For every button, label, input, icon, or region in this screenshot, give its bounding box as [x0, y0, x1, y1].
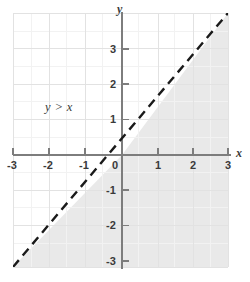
y-tick-label-3: 3	[110, 44, 116, 55]
x-tick-label-2: 2	[190, 160, 196, 171]
coordinate-plane	[0, 0, 250, 282]
x-tick-label-1: 1	[155, 160, 161, 171]
y-tick-label--1: -1	[106, 185, 116, 196]
x-tick-label--1: -1	[79, 160, 89, 171]
x-tick-label--3: -3	[7, 160, 17, 171]
y-tick-label--2: -2	[106, 220, 116, 231]
x-tick-label-3: 3	[225, 160, 231, 171]
y-tick-label-1: 1	[110, 114, 116, 125]
inequality-annotation: y > x	[45, 101, 73, 114]
x-axis-label: x	[236, 147, 242, 159]
inequality-graph-figure: -3 -2 -1 0 1 2 3 3 2 1 -1 -2 -3 x y y > …	[0, 0, 250, 282]
x-tick-label-0: 0	[112, 160, 118, 171]
y-tick-label--3: -3	[106, 256, 116, 267]
y-tick-label-2: 2	[110, 79, 116, 90]
x-tick-label--2: -2	[43, 160, 53, 171]
y-axis-label: y	[117, 3, 122, 15]
